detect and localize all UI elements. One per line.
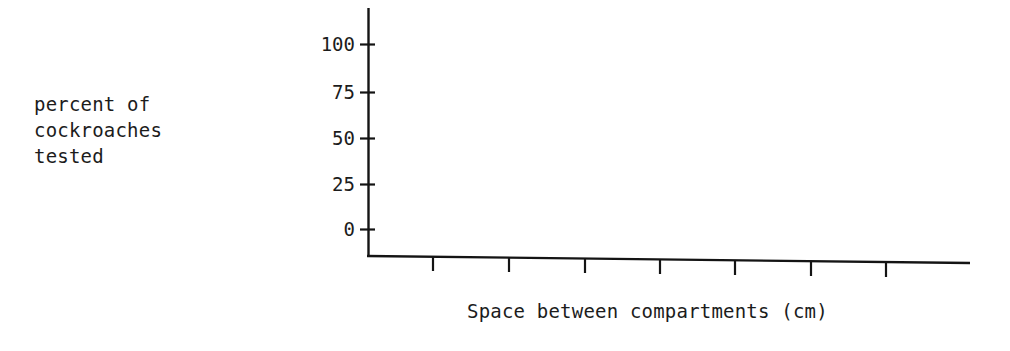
x-axis-line: [367, 256, 970, 263]
x-axis-label: Space between compartments (cm): [467, 299, 828, 323]
y-tick-label-100: 100: [321, 33, 355, 55]
y-tick-label-25: 25: [332, 173, 355, 195]
y-tick-label-50: 50: [332, 127, 355, 149]
y-tick-label-75: 75: [332, 81, 355, 103]
x-tick-marks: [433, 257, 886, 277]
figure-container: percent of cockroaches tested 100 75 50 …: [0, 0, 1010, 351]
y-tick-labels: 100 75 50 25 0: [321, 33, 355, 240]
y-tick-label-0: 0: [344, 218, 355, 240]
